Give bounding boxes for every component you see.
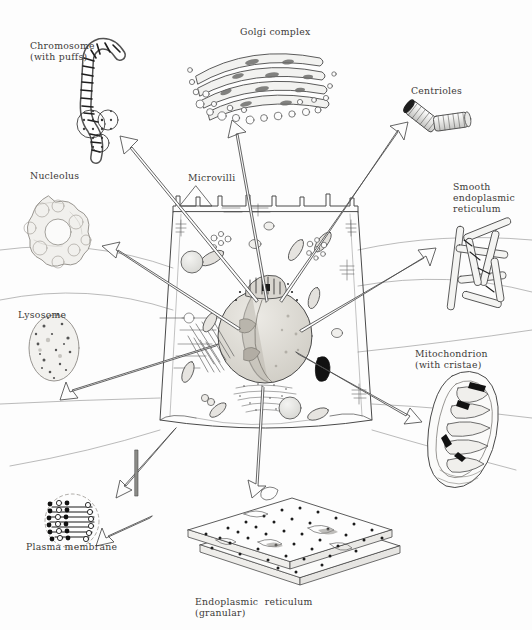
label-plasma-membrane: Plasma membrane xyxy=(26,541,117,552)
label-centrioles: Centrioles xyxy=(411,85,462,96)
golgi-complex-figure xyxy=(188,54,337,124)
label-lysosome: Lysosome xyxy=(18,309,66,320)
label-nucleolus: Nucleolus xyxy=(30,170,79,181)
granular-er-figure xyxy=(188,487,400,585)
mitochondrion-figure xyxy=(428,371,499,487)
label-smooth-er: Smooth endoplasmic reticulum xyxy=(453,181,515,215)
nucleolus-figure xyxy=(24,196,91,268)
plasma-membrane-segment xyxy=(135,450,138,496)
centriole-pair-figure xyxy=(402,98,472,133)
smooth-er-figure xyxy=(447,217,512,310)
plasma-membrane-figure xyxy=(45,494,99,548)
label-mitochondrion: Mitochondrion (with cristae) xyxy=(415,348,488,370)
lysosome-figure xyxy=(29,313,79,381)
label-golgi-complex: Golgi complex xyxy=(240,26,310,37)
label-granular-er: Endoplasmic reticulum (granular) xyxy=(195,596,313,618)
label-chromosome: Chromosome (with puffs) xyxy=(30,40,95,62)
label-microvilli: Microvilli xyxy=(188,172,235,183)
figure-canvas: Chromosome (with puffs) Golgi complex Ce… xyxy=(0,0,532,630)
